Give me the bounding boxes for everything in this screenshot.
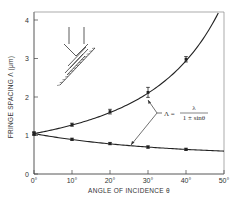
y-tick-label: 4 <box>25 17 29 24</box>
substrate-hatching <box>57 48 95 86</box>
x-tick-label: 40° <box>181 177 192 184</box>
x-axis: 0°10°20°30°40°50° <box>31 170 230 184</box>
x-tick-label: 30° <box>143 177 154 184</box>
data-point <box>147 146 150 149</box>
data-point <box>71 138 74 141</box>
beam-arrowhead <box>64 44 88 56</box>
y-tick-label: 3 <box>25 55 29 62</box>
inset-schematic <box>57 27 95 86</box>
annotation-pointer-lower <box>131 113 157 145</box>
y-tick-label: 1 <box>25 132 29 139</box>
data-point <box>185 58 188 61</box>
curve-lower <box>34 134 224 152</box>
data-point <box>147 91 150 94</box>
y-axis-title: FRINGE SPACING Λ (μm) <box>7 56 15 139</box>
data-point <box>109 142 112 145</box>
x-tick-label: 20° <box>105 177 116 184</box>
data-point <box>109 110 112 113</box>
data-points <box>32 57 188 151</box>
formula-lhs: Λ = <box>164 110 175 118</box>
x-tick-label: 10° <box>67 177 78 184</box>
formula-annotation: Λ = λ 1 ± sinθ <box>131 100 208 145</box>
x-tick-label: 0° <box>31 177 38 184</box>
x-axis-title: ANGLE OF INCIDENCE θ <box>88 187 170 194</box>
formula-denominator: 1 ± sinθ <box>183 114 206 122</box>
y-tick-label: 0 <box>25 171 29 178</box>
y-axis: 01234 <box>25 17 38 178</box>
data-point <box>185 148 188 151</box>
chart: 0°10°20°30°40°50° 01234 ANGLE OF INCIDEN… <box>0 0 240 207</box>
sample-layer-1 <box>68 47 86 66</box>
data-point <box>71 123 74 126</box>
hatch-mark <box>57 85 60 86</box>
formula-numerator: λ <box>192 104 196 112</box>
x-tick-label: 50° <box>219 177 230 184</box>
data-point <box>33 132 36 135</box>
y-tick-label: 2 <box>25 94 29 101</box>
